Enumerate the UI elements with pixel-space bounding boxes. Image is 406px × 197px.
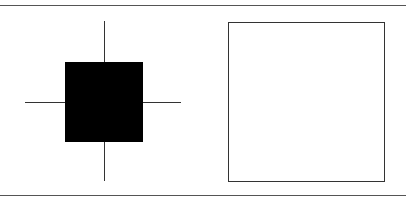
bottom-rule [0, 195, 406, 196]
left-panel [25, 21, 181, 181]
figure-canvas [0, 0, 406, 197]
right-panel [229, 23, 385, 182]
outlined-square [229, 23, 385, 182]
filled-black-square [65, 62, 143, 142]
